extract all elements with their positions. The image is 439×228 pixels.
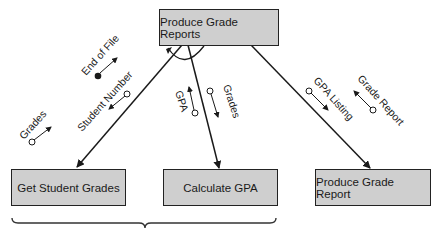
grouping-brace: [12, 218, 276, 228]
module-get-student-grades[interactable]: Get Student Grades: [11, 169, 126, 206]
module-label: Produce Grade Reports: [160, 16, 278, 40]
module-calculate-gpa[interactable]: Calculate GPA: [163, 169, 278, 206]
couple-label: Grades: [221, 83, 243, 119]
couple-student-number: Student Number: [75, 68, 135, 133]
module-produce-grade-report[interactable]: Produce Grade Report: [315, 169, 431, 206]
loop-icon: [168, 46, 204, 60]
couple-grade-report: Grade Report: [354, 72, 407, 127]
couple-end-of-file: End of File: [79, 32, 122, 79]
couple-grades-left: Grades: [17, 108, 51, 145]
couple-label: Student Number: [75, 68, 135, 133]
control-flag-icon: [95, 73, 102, 80]
module-label: Calculate GPA: [183, 182, 258, 194]
couple-gpa: GPA: [173, 87, 198, 116]
couple-label: End of File: [79, 32, 122, 77]
couple-label: GPA: [173, 89, 191, 113]
couple-gpa-listing: GPA Listing: [306, 74, 357, 122]
module-label: Get Student Grades: [17, 182, 119, 194]
data-couple-icon: [207, 88, 213, 94]
couple-label: Grades: [17, 108, 49, 142]
module-label: Produce Grade Report: [316, 176, 430, 200]
module-produce-grade-reports[interactable]: Produce Grade Reports: [159, 9, 279, 46]
connector-to-produce-grade-report: [251, 45, 370, 168]
couple-grades-middle: Grades: [207, 83, 243, 119]
data-couple-icon: [192, 110, 198, 116]
